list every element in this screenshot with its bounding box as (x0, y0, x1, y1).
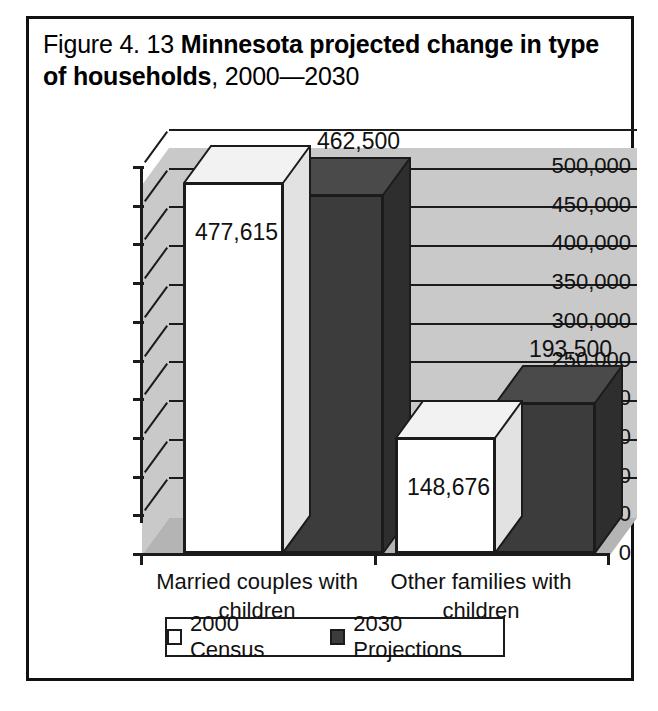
y-axis-tick (133, 205, 144, 208)
title-suffix: , 2000—2030 (211, 62, 359, 90)
y-axis-tick-label: 450,000 (527, 192, 631, 218)
bar-outline (184, 146, 314, 557)
legend-label: 2000 Census (190, 611, 308, 663)
bar-census-2000[interactable] (184, 146, 283, 553)
legend-label: 2030 Projections (353, 611, 503, 663)
legend-swatch-icon (167, 629, 182, 645)
bar-value-label: 462,500 (309, 128, 408, 155)
bar-value-label: 148,676 (402, 474, 495, 501)
y-axis-tick (133, 476, 144, 479)
title-prefix: Figure 4. 13 (43, 30, 181, 58)
page-title: Figure 4. 13 Minnesota projected change … (43, 28, 618, 92)
y-axis-tick (133, 243, 144, 246)
y-axis-tick-label: 400,000 (527, 230, 631, 256)
y-axis-tick (133, 282, 144, 285)
y-axis-tick (133, 514, 144, 517)
bar-value-label: 193,500 (521, 336, 620, 363)
bar-value-label: 477,615 (190, 219, 283, 246)
category-label-line: Married couples with (142, 567, 372, 596)
y-axis-tick (133, 360, 144, 363)
y-axis-tick (133, 166, 144, 169)
y-axis-tick (133, 398, 144, 401)
chart-legend: 2000 Census2030 Projections (165, 617, 505, 657)
legend-item[interactable]: 2000 Census (167, 611, 308, 663)
x-axis-tick (140, 553, 143, 565)
legend-item[interactable]: 2030 Projections (330, 611, 503, 663)
y-axis-line (140, 166, 143, 523)
legend-swatch-icon (330, 629, 345, 645)
y-axis-tick (133, 321, 144, 324)
y-axis-tick-label: 350,000 (527, 269, 631, 295)
y-axis-tick-label: 500,000 (527, 153, 631, 179)
y-axis-tick-label: 300,000 (527, 308, 631, 334)
figure-frame: Figure 4. 13 Minnesota projected change … (26, 16, 634, 681)
chart-plot-area: 500,000450,000400,000350,000300,000250,0… (29, 115, 631, 585)
y-axis-tick (133, 437, 144, 440)
category-label-line: Other families with (366, 567, 596, 596)
chart-left-wall (142, 148, 169, 555)
